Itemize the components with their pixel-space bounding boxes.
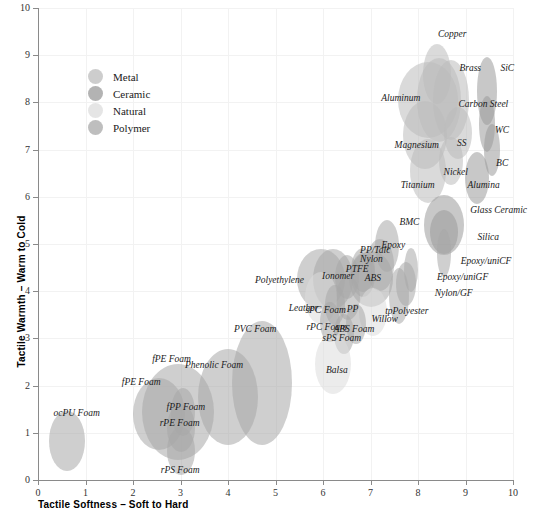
point-label: Titanium bbox=[401, 181, 435, 191]
point-label: ocPU Foam bbox=[54, 409, 100, 419]
x-axis-tick bbox=[228, 480, 229, 485]
point-label: ABS bbox=[365, 274, 381, 284]
point-label: Epoxy/uniGF bbox=[437, 273, 488, 283]
gridline-horizontal bbox=[38, 55, 513, 56]
point-label: Nickel bbox=[444, 168, 468, 178]
data-bubble bbox=[133, 378, 185, 450]
point-label: Brass bbox=[459, 64, 481, 74]
point-label: rPS Foam bbox=[161, 466, 200, 476]
legend-item-label: Ceramic bbox=[113, 88, 150, 100]
y-axis-tick-label: 10 bbox=[8, 2, 30, 13]
x-axis-title: Tactile Softness – Soft to Hard bbox=[38, 499, 188, 510]
x-axis-tick-label: 0 bbox=[26, 487, 50, 498]
legend-item-natural[interactable]: Natural bbox=[88, 102, 150, 119]
point-label: SiC bbox=[500, 64, 514, 74]
y-axis-tick-label: 7 bbox=[8, 144, 30, 155]
x-axis-tick-label: 9 bbox=[454, 487, 478, 498]
legend: MetalCeramicNaturalPolymer bbox=[88, 68, 150, 136]
y-axis-tick bbox=[33, 8, 38, 9]
x-axis-tick bbox=[38, 480, 39, 485]
gridline-horizontal bbox=[38, 244, 513, 245]
y-axis-tick bbox=[33, 291, 38, 292]
y-axis-tick bbox=[33, 55, 38, 56]
y-axis-tick-label: 8 bbox=[8, 96, 30, 107]
x-axis-tick-label: 7 bbox=[359, 487, 383, 498]
x-axis-tick-label: 4 bbox=[216, 487, 240, 498]
gridline-horizontal bbox=[38, 150, 513, 151]
point-label: BMC bbox=[399, 218, 419, 228]
point-label: PVC Foam bbox=[234, 325, 276, 335]
legend-swatch-icon bbox=[88, 86, 103, 101]
legend-item-ceramic[interactable]: Ceramic bbox=[88, 85, 150, 102]
data-bubble bbox=[437, 229, 451, 277]
point-label: Silica bbox=[477, 233, 499, 243]
point-label: fPE Foam bbox=[152, 355, 191, 365]
y-axis-line bbox=[38, 8, 39, 480]
y-axis-tick-label: 1 bbox=[8, 427, 30, 438]
x-axis-tick-label: 3 bbox=[169, 487, 193, 498]
point-label: Polyethylene bbox=[255, 276, 304, 286]
x-axis-tick bbox=[86, 480, 87, 485]
x-axis-tick-label: 6 bbox=[311, 487, 335, 498]
x-axis-tick-label: 2 bbox=[121, 487, 145, 498]
legend-item-polymer[interactable]: Polymer bbox=[88, 119, 150, 136]
x-axis-tick bbox=[513, 480, 514, 485]
data-bubble bbox=[430, 210, 458, 254]
y-axis-tick bbox=[33, 480, 38, 481]
legend-swatch-icon bbox=[88, 120, 103, 135]
point-label: fPP Foam bbox=[167, 403, 206, 413]
point-label: Nylon/GF bbox=[435, 289, 473, 299]
y-axis-tick bbox=[33, 197, 38, 198]
x-axis-tick bbox=[418, 480, 419, 485]
data-bubble bbox=[403, 101, 447, 169]
data-bubble bbox=[444, 107, 472, 159]
data-bubble bbox=[423, 44, 451, 104]
point-label: rPE Foam bbox=[160, 419, 200, 429]
data-bubble bbox=[404, 248, 418, 292]
gridline-horizontal bbox=[38, 197, 513, 198]
legend-item-metal[interactable]: Metal bbox=[88, 68, 150, 85]
point-label: Phenolic Foam bbox=[185, 361, 243, 371]
point-label: Carbon Steel bbox=[458, 100, 508, 110]
gridline-horizontal bbox=[38, 8, 513, 9]
x-axis-tick bbox=[181, 480, 182, 485]
x-axis-tick bbox=[466, 480, 467, 485]
y-axis-tick-label: 0 bbox=[8, 474, 30, 485]
x-axis-tick-label: 8 bbox=[406, 487, 430, 498]
point-label: Copper bbox=[438, 30, 467, 40]
point-label: WC bbox=[495, 126, 509, 136]
x-axis-tick-label: 5 bbox=[264, 487, 288, 498]
point-label: Willow bbox=[372, 315, 398, 325]
point-label: sPC Foam bbox=[305, 306, 345, 316]
point-label: Ionomer bbox=[322, 272, 354, 282]
bubble-chart-figure: 012345678910012345678910 Tactile Softnes… bbox=[0, 0, 538, 516]
point-label: Aluminum bbox=[381, 94, 420, 104]
point-label: fPE Foam bbox=[122, 378, 161, 388]
point-label: SS bbox=[457, 139, 467, 149]
data-bubble bbox=[417, 58, 461, 142]
legend-item-label: Natural bbox=[113, 105, 146, 117]
gridline-horizontal bbox=[38, 433, 513, 434]
legend-item-label: Polymer bbox=[113, 122, 150, 134]
gridline-horizontal bbox=[38, 386, 513, 387]
point-label: Magnesium bbox=[395, 141, 439, 151]
x-axis-tick-label: 1 bbox=[74, 487, 98, 498]
gridline-vertical bbox=[513, 8, 514, 480]
y-axis-tick bbox=[33, 102, 38, 103]
point-label: BC bbox=[496, 159, 508, 169]
point-label: Balsa bbox=[326, 366, 348, 376]
point-label: Epoxy/uniCF bbox=[461, 257, 512, 267]
data-bubble bbox=[49, 411, 85, 471]
y-axis-tick bbox=[33, 433, 38, 434]
point-label: Alumina bbox=[467, 181, 499, 191]
y-axis-tick bbox=[33, 386, 38, 387]
gridline-horizontal bbox=[38, 338, 513, 339]
y-axis-tick bbox=[33, 244, 38, 245]
legend-swatch-icon bbox=[88, 103, 103, 118]
x-axis-tick-label: 10 bbox=[501, 487, 525, 498]
x-axis-tick bbox=[323, 480, 324, 485]
y-axis-tick-label: 9 bbox=[8, 49, 30, 60]
legend-item-label: Metal bbox=[113, 71, 139, 83]
y-axis-tick bbox=[33, 150, 38, 151]
point-label: sPS Foam bbox=[322, 334, 361, 344]
